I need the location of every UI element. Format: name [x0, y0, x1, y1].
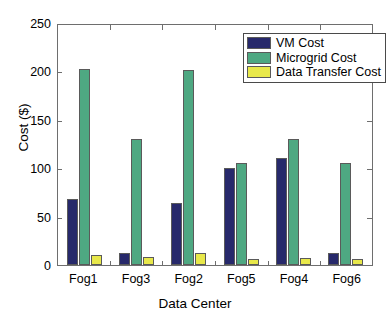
bar-fog3-data-transfer-cost [143, 257, 154, 265]
legend-swatch-data-transfer-cost [247, 66, 271, 78]
bar-group-fog1 [67, 25, 102, 265]
bar-fog4-vm-cost [276, 158, 287, 265]
y-tick-label: 250 [11, 18, 51, 31]
x-axis-tick-top [162, 25, 163, 30]
bar-fog5-vm-cost [224, 168, 235, 265]
x-tick-label-fog4: Fog4 [264, 272, 324, 286]
bar-fog2-microgrid-cost [183, 70, 194, 265]
bar-fog6-data-transfer-cost [352, 259, 363, 265]
bar-fog2-vm-cost [171, 203, 182, 265]
bar-fog1-microgrid-cost [79, 69, 90, 265]
legend-label-vm-cost: VM Cost [276, 37, 324, 50]
x-axis-tick [268, 261, 269, 266]
bar-group-fog2 [171, 25, 206, 265]
legend-item: Microgrid Cost [247, 52, 381, 65]
x-axis-tick [110, 261, 111, 266]
bar-fog4-data-transfer-cost [300, 258, 311, 265]
x-tick-label-fog2: Fog2 [159, 272, 219, 286]
bar-group-fog3 [119, 25, 154, 265]
bar-fog6-vm-cost [328, 253, 339, 265]
bar-fog3-microgrid-cost [131, 139, 142, 265]
y-axis-tick [57, 72, 62, 73]
y-axis-tick [57, 121, 62, 122]
x-tick-label-fog5: Fog5 [211, 272, 271, 286]
bar-fog1-data-transfer-cost [91, 255, 102, 265]
x-tick-label-fog6: Fog6 [317, 272, 377, 286]
bar-fog2-data-transfer-cost [195, 253, 206, 265]
y-axis-tick [57, 218, 62, 219]
bar-fog6-microgrid-cost [340, 163, 351, 265]
y-axis-tick [57, 169, 62, 170]
y-tick-label: 50 [11, 211, 51, 224]
x-axis-tick [320, 261, 321, 266]
y-tick-label: 0 [11, 260, 51, 273]
x-axis-tick-top [215, 25, 216, 30]
x-tick-label-fog1: Fog1 [53, 272, 113, 286]
legend-label-microgrid-cost: Microgrid Cost [276, 52, 357, 65]
x-axis-tick-top [268, 25, 269, 30]
bar-fog1-vm-cost [67, 199, 78, 265]
bar-chart-figure: 050100150200250Fog1Fog3Fog2Fog5Fog4Fog6 … [0, 0, 390, 327]
bar-fog3-vm-cost [119, 253, 130, 265]
x-tick-label-fog3: Fog3 [106, 272, 166, 286]
x-axis-tick-top [110, 25, 111, 30]
x-axis-tick [215, 261, 216, 266]
chart-legend: VM Cost Microgrid Cost Data Transfer Cos… [243, 33, 386, 83]
legend-item: Data Transfer Cost [247, 66, 381, 79]
x-axis-tick [162, 261, 163, 266]
legend-swatch-vm-cost [247, 37, 271, 49]
y-axis-tick-right [367, 121, 372, 122]
legend-swatch-microgrid-cost [247, 52, 271, 64]
bar-fog4-microgrid-cost [288, 139, 299, 265]
legend-item: VM Cost [247, 37, 381, 50]
legend-label-data-transfer-cost: Data Transfer Cost [276, 66, 381, 79]
x-axis-tick-top [320, 25, 321, 30]
bar-fog5-microgrid-cost [236, 163, 247, 265]
x-axis-label: Data Center [0, 296, 390, 311]
y-axis-label: Cost ($) [16, 58, 31, 198]
y-axis-tick-right [367, 169, 372, 170]
bar-fog5-data-transfer-cost [248, 259, 259, 265]
y-axis-tick-right [367, 218, 372, 219]
